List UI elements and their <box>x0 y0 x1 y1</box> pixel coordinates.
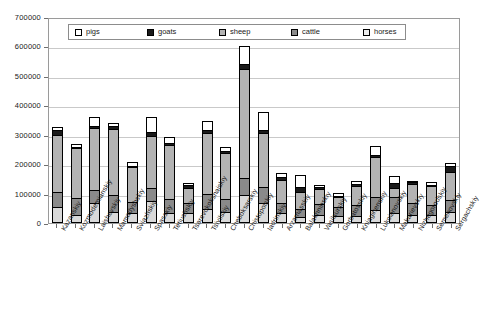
legend-item-label: cattle <box>302 28 320 36</box>
legend-item-cattle[interactable]: cattle <box>291 28 363 36</box>
y-axis-tick-label: 300000 <box>15 132 41 140</box>
bar-segment-sheep <box>90 129 99 191</box>
bar-column <box>407 19 418 223</box>
x-axis-label-slot: Laishevskiy <box>89 229 100 313</box>
legend-swatch-pigs-icon <box>75 29 82 36</box>
x-axis-label-slot: Vasilsurskiy <box>314 229 325 313</box>
x-axis: KazanskiyKozmodemianskiyLaishevskiyMamad… <box>48 224 460 313</box>
x-axis-label-slot: Kazanskiy <box>51 229 62 313</box>
bar-column <box>108 19 119 223</box>
bar-segment-horses <box>53 208 62 222</box>
legend-item-label: goats <box>158 28 176 36</box>
bar-segment-sheep <box>165 146 174 200</box>
x-axis-label-slot: Chistopolskiy <box>239 229 250 313</box>
bar-segment-pigs <box>259 113 268 132</box>
bar-segment-sheep <box>240 70 249 179</box>
y-axis-tick-label: 0 <box>37 220 41 228</box>
bar-segment-sheep <box>109 130 118 195</box>
bar-stack <box>52 127 63 223</box>
bar-column <box>276 19 287 223</box>
bar-column <box>164 19 175 223</box>
bar-segment-sheep <box>259 134 268 189</box>
y-axis-tick-label: 200000 <box>15 161 41 169</box>
x-axis-label-slot: Arzamasskiy <box>277 229 288 313</box>
bar-column <box>333 19 344 223</box>
legend-item-pigs[interactable]: pigs <box>75 28 147 36</box>
bar-segment-pigs <box>240 47 249 65</box>
x-axis-labels: KazanskiyKozmodemianskiyLaishevskiyMamad… <box>48 229 460 313</box>
x-axis-label-slot: Sergachskiy <box>446 229 457 313</box>
y-axis-tick-label: 500000 <box>15 73 41 81</box>
bar-column <box>71 19 82 223</box>
bar-segment-sheep <box>147 137 156 189</box>
bar-segment-sheep <box>53 136 62 194</box>
legend-swatch-sheep-icon <box>219 29 226 36</box>
bar-segment-sheep <box>371 158 380 198</box>
bar-segment-sheep <box>277 181 286 205</box>
bar-segment-sheep <box>72 149 81 199</box>
x-axis-label-slot: Semenovskiy <box>427 229 438 313</box>
x-axis-label-slot: Gorbatovskiy <box>333 229 344 313</box>
legend-item-label: horses <box>374 28 397 36</box>
y-axis-tick-label: 400000 <box>15 102 41 110</box>
legend-item-label: pigs <box>86 28 100 36</box>
bar-segment-cattle <box>53 193 62 208</box>
x-axis-label-slot: Sviazhskiy <box>126 229 137 313</box>
bar-column <box>426 19 437 223</box>
x-axis-label-slot: Lukoianovskiy <box>371 229 382 313</box>
legend-item-horses[interactable]: horses <box>363 28 399 36</box>
bar-column <box>183 19 194 223</box>
bar-column <box>52 19 63 223</box>
y-axis: 0100000200000300000400000500000600000700… <box>0 0 48 224</box>
x-axis-label-slot: Iadrinskiy <box>258 229 269 313</box>
x-axis-label-slot: Tsarevokokshaiskiy <box>183 229 194 313</box>
bar-column <box>146 19 157 223</box>
bar-segment-pigs <box>296 176 305 188</box>
x-axis-label-slot: Balakhninskiy <box>295 229 306 313</box>
chart-legend: pigsgoatssheepcattlehorses <box>68 24 406 40</box>
bar-segment-pigs <box>147 118 156 133</box>
legend-swatch-horses-icon <box>363 29 370 36</box>
x-axis-label-slot: Nizhegorodskiy <box>408 229 419 313</box>
x-axis-label-slot: Mamadyshskiy <box>107 229 118 313</box>
bar-segment-pigs <box>371 147 380 155</box>
bar-segment-sheep <box>203 134 212 195</box>
x-axis-label-slot: Tetiushskiy <box>164 229 175 313</box>
bar-segment-pigs <box>90 118 99 126</box>
x-axis-label-slot: Kniaginenskiy <box>352 229 363 313</box>
bar-column <box>220 19 231 223</box>
legend-item-label: sheep <box>230 28 250 36</box>
bar-segment-pigs <box>390 177 399 185</box>
x-axis-label-slot: Cheboksarskiy <box>220 229 231 313</box>
x-axis-label-slot: Tsivilskiy <box>201 229 212 313</box>
legend-swatch-cattle-icon <box>291 29 298 36</box>
y-axis-tick-label: 100000 <box>15 191 41 199</box>
legend-item-goats[interactable]: goats <box>147 28 219 36</box>
x-axis-label-slot: Makarievskiy <box>389 229 400 313</box>
x-axis-label-slot: Kozmodemianskiy <box>70 229 81 313</box>
y-axis-tick-label: 700000 <box>15 14 41 22</box>
legend-item-sheep[interactable]: sheep <box>219 28 291 36</box>
legend-swatch-goats-icon <box>147 29 154 36</box>
y-axis-tick-label: 600000 <box>15 43 41 51</box>
x-axis-label-slot: Spasskiy <box>145 229 156 313</box>
bar-segment-pigs <box>203 122 212 131</box>
